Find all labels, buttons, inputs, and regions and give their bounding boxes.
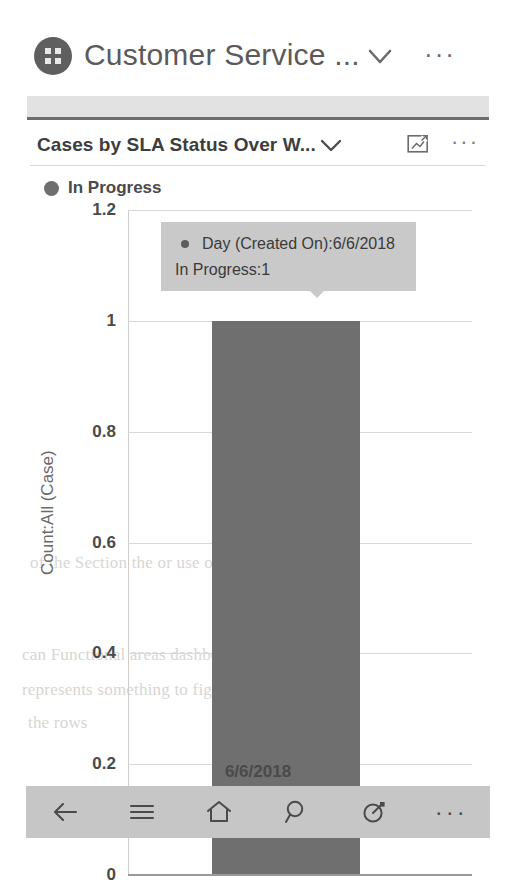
arrow-left-icon bbox=[50, 799, 80, 825]
tooltip-row-day: Day (Created On):6/6/2018 bbox=[175, 235, 404, 253]
chart-card: Cases by SLA Status Over W... ··· In Pro… bbox=[0, 120, 516, 870]
nav-home-button[interactable] bbox=[181, 786, 258, 838]
hamburger-menu-icon bbox=[128, 801, 156, 823]
app-overflow-menu-button[interactable]: ··· bbox=[424, 44, 456, 64]
app-header: Customer Service ... ··· bbox=[0, 0, 516, 88]
y-tick-label: 0.4 bbox=[46, 643, 116, 663]
legend-swatch-in-progress bbox=[44, 181, 59, 196]
y-tick-label: 1 bbox=[46, 311, 116, 331]
home-icon bbox=[205, 799, 233, 825]
search-icon bbox=[283, 798, 311, 826]
tooltip-day-text: Day (Created On):6/6/2018 bbox=[202, 235, 395, 253]
chevron-down-icon[interactable] bbox=[318, 136, 344, 156]
nav-more-button[interactable]: ··· bbox=[413, 786, 490, 838]
overflow-icon: ··· bbox=[435, 803, 468, 821]
target-pin-icon bbox=[360, 798, 388, 826]
header-band bbox=[27, 96, 489, 117]
x-tick-label: 6/6/2018 bbox=[0, 762, 516, 782]
nav-pin-button[interactable] bbox=[335, 786, 412, 838]
nav-menu-button[interactable] bbox=[103, 786, 180, 838]
chart-overflow-menu-button[interactable]: ··· bbox=[451, 132, 479, 152]
gridline bbox=[128, 210, 472, 211]
bottom-nav-bar: ··· bbox=[26, 786, 490, 838]
nav-back-button[interactable] bbox=[26, 786, 103, 838]
expand-chart-icon[interactable] bbox=[407, 134, 429, 154]
nav-search-button[interactable] bbox=[258, 786, 335, 838]
y-tick-label: 0.8 bbox=[46, 422, 116, 442]
y-tick-label: 1.2 bbox=[46, 200, 116, 220]
y-axis-title: Count:All (Case) bbox=[38, 450, 58, 575]
tooltip-marker-dot bbox=[181, 240, 189, 248]
legend-label-in-progress: In Progress bbox=[68, 178, 162, 198]
app-title: Customer Service ... bbox=[84, 38, 360, 72]
chart-title-divider bbox=[30, 165, 485, 166]
chart-tooltip: Day (Created On):6/6/2018 In Progress:1 bbox=[161, 222, 416, 291]
tooltip-pointer bbox=[309, 290, 325, 298]
x-axis-line bbox=[128, 874, 472, 876]
y-tick-label: 0 bbox=[46, 865, 116, 884]
chart-title: Cases by SLA Status Over W... bbox=[37, 134, 316, 156]
chart-legend: In Progress bbox=[44, 178, 162, 198]
app-grid-icon bbox=[34, 37, 72, 75]
tooltip-value-text: In Progress:1 bbox=[175, 261, 404, 279]
chevron-down-icon[interactable] bbox=[365, 46, 395, 68]
